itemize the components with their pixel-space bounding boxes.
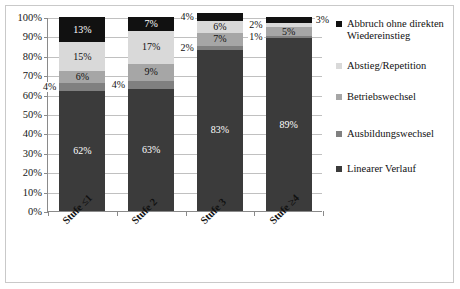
y-axis-tick-label: 50%	[23, 110, 42, 121]
y-axis-tick	[44, 96, 48, 97]
legend-item[interactable]: Abstieg/Repetition	[336, 60, 426, 72]
legend-label: Abstieg/Repetition	[347, 60, 426, 72]
y-axis-tick-label: 20%	[23, 168, 42, 179]
y-axis-tick	[44, 37, 48, 38]
bar-segment[interactable]: 4%	[197, 13, 243, 21]
bar-segment-label: 63%	[142, 145, 160, 155]
bar-segment[interactable]: 5%	[266, 27, 312, 37]
legend-label: Betriebswechsel	[347, 91, 416, 103]
bar-segment-label: 4%	[42, 82, 57, 92]
stacked-bar[interactable]: 7%17%9%4%63%	[128, 17, 174, 211]
bar-segment[interactable]: 6%	[197, 21, 243, 33]
bar-segment[interactable]: 63%	[128, 89, 174, 211]
y-axis-tick	[44, 76, 48, 77]
stacked-bar[interactable]: 3%2%5%1%89%	[266, 17, 312, 211]
bar-segment[interactable]: 4%	[128, 81, 174, 89]
y-axis-tick-label: 100%	[18, 13, 43, 24]
y-axis-tick-label: 60%	[23, 90, 42, 101]
bar-segment-label: 7%	[213, 34, 226, 44]
y-axis-tick	[44, 115, 48, 116]
bar-segment-label: 4%	[111, 80, 126, 90]
y-axis-tick	[44, 193, 48, 194]
legend-label: Ausbildungswechsel	[347, 128, 434, 140]
legend-item[interactable]: Betriebswechsel	[336, 91, 416, 103]
x-axis-tick	[323, 211, 324, 216]
bar-segment-label: 1%	[248, 32, 263, 42]
bar-segment-label: 7%	[144, 19, 157, 29]
bar-segment[interactable]: 7%	[197, 33, 243, 47]
bar-segment[interactable]: 83%	[197, 50, 243, 211]
legend-swatch	[336, 21, 342, 27]
legend-swatch	[336, 63, 342, 69]
stacked-bar[interactable]: 4%6%7%2%83%	[197, 13, 243, 211]
bar-segment-label: 13%	[73, 25, 91, 35]
bar-segment-label: 5%	[282, 27, 295, 37]
bar-segment[interactable]: 89%	[266, 38, 312, 211]
bar-segment-label: 4%	[180, 12, 195, 22]
bar-segment[interactable]: 9%	[128, 64, 174, 81]
bar-segment[interactable]: 17%	[128, 31, 174, 64]
legend-label: Linearer Verlauf	[347, 163, 416, 175]
legend-swatch	[336, 131, 342, 137]
x-axis-tick	[254, 211, 255, 216]
bar-segment[interactable]: 4%	[59, 83, 105, 91]
stacked-bar[interactable]: 13%15%6%4%62%	[59, 17, 105, 211]
legend-item[interactable]: Abbruch ohne direkten Wiedereinstieg	[336, 18, 451, 42]
y-axis-tick-label: 30%	[23, 149, 42, 160]
legend-label: Abbruch ohne direkten Wiedereinstieg	[347, 18, 451, 42]
bar-segment-label: 83%	[211, 125, 229, 135]
bar-segment[interactable]: 15%	[59, 42, 105, 71]
y-axis-tick-label: 70%	[23, 71, 42, 82]
y-axis-tick	[44, 154, 48, 155]
bar-segment-label: 2%	[180, 43, 195, 53]
bar-segment-label: 15%	[73, 52, 91, 62]
bar-segment-label: 2%	[248, 20, 263, 30]
y-axis-tick-label: 10%	[23, 187, 42, 198]
y-axis-tick-label: 80%	[23, 52, 42, 63]
bar-segment-label: 9%	[144, 67, 157, 77]
x-axis-tick	[117, 211, 118, 216]
plot-area: 100%90%80%70%60%50%40%30%20%10%0% 13%15%…	[47, 18, 322, 212]
bar-segment[interactable]: 13%	[59, 17, 105, 42]
bar-segment[interactable]: 62%	[59, 91, 105, 211]
bar-segment-label: 3%	[315, 15, 330, 25]
legend-item[interactable]: Linearer Verlauf	[336, 163, 416, 175]
x-axis-tick	[48, 211, 49, 216]
bar-segment-label: 89%	[279, 120, 297, 130]
bar-segment[interactable]: 6%	[59, 71, 105, 83]
bar-segment-label: 6%	[213, 22, 226, 32]
chart-figure: 100%90%80%70%60%50%40%30%20%10%0% 13%15%…	[0, 0, 460, 289]
y-axis-tick	[44, 57, 48, 58]
x-axis-tick	[186, 211, 187, 216]
bar-segment[interactable]: 7%	[128, 17, 174, 31]
bar-segment-label: 62%	[73, 146, 91, 156]
y-axis-tick	[44, 173, 48, 174]
legend-swatch	[336, 166, 342, 172]
y-axis-tick-label: 40%	[23, 129, 42, 140]
y-axis-tick	[44, 18, 48, 19]
y-axis-tick-label: 90%	[23, 32, 42, 43]
bar-segment-label: 6%	[76, 72, 89, 82]
bar-segment-label: 17%	[142, 42, 160, 52]
legend-swatch	[336, 94, 342, 100]
y-axis-tick	[44, 134, 48, 135]
y-axis-tick-label: 0%	[28, 207, 42, 218]
legend-item[interactable]: Ausbildungswechsel	[336, 128, 434, 140]
